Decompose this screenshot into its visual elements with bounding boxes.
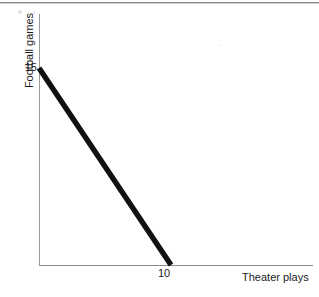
tradeoff-line: [39, 68, 171, 265]
figure-container: 15 10 Football games Theater plays: [0, 0, 319, 297]
x-axis-title: Theater plays: [242, 271, 309, 284]
y-axis-title: Football games: [23, 1, 36, 101]
x-axis-tick-label-10: 10: [158, 267, 170, 280]
plot-area: [0, 0, 319, 297]
